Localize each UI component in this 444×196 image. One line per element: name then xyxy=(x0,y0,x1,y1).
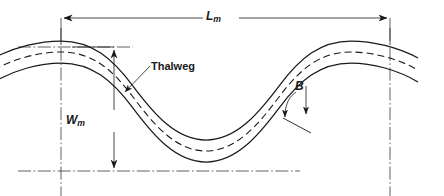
label-meander-width-subscript: m xyxy=(77,118,85,128)
bank-line-inner xyxy=(0,63,418,162)
label-meander-length: Lm xyxy=(206,9,221,24)
leader-thalweg xyxy=(125,66,150,92)
label-thalweg: Thalweg xyxy=(151,60,195,72)
label-meander-length-subscript: m xyxy=(213,14,221,24)
bank-line-outer xyxy=(0,41,418,140)
extension-lines xyxy=(61,18,390,44)
callout-channel-width xyxy=(283,86,311,133)
label-meander-width-symbol: W xyxy=(66,113,77,127)
label-channel-width: B xyxy=(295,79,304,93)
channel-planform xyxy=(0,41,418,162)
thalweg-line xyxy=(0,52,418,151)
leader-B-curve xyxy=(285,92,296,117)
label-meander-width: Wm xyxy=(66,113,85,128)
channel-width-tick xyxy=(283,118,311,133)
diagram-canvas xyxy=(0,0,444,196)
leader-thalweg-line xyxy=(125,66,150,92)
meander-diagram: Lm Wm Thalweg B xyxy=(0,0,444,196)
